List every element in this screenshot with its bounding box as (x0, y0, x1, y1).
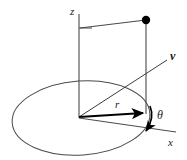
radius-vector-arrow (79, 113, 143, 117)
coordinate-system-figure: z x v r θ (0, 0, 187, 160)
top-connector-line (80, 20, 146, 28)
vector-v-label: v (170, 49, 176, 63)
radius-r-label: r (115, 98, 120, 110)
z-axis-label: z (69, 5, 75, 17)
diagram-canvas: z x v r θ (0, 0, 187, 160)
x-axis-label: x (167, 136, 173, 148)
point-marker (142, 16, 150, 24)
theta-angle-label: θ (157, 108, 163, 122)
position-vector-line (79, 60, 167, 117)
